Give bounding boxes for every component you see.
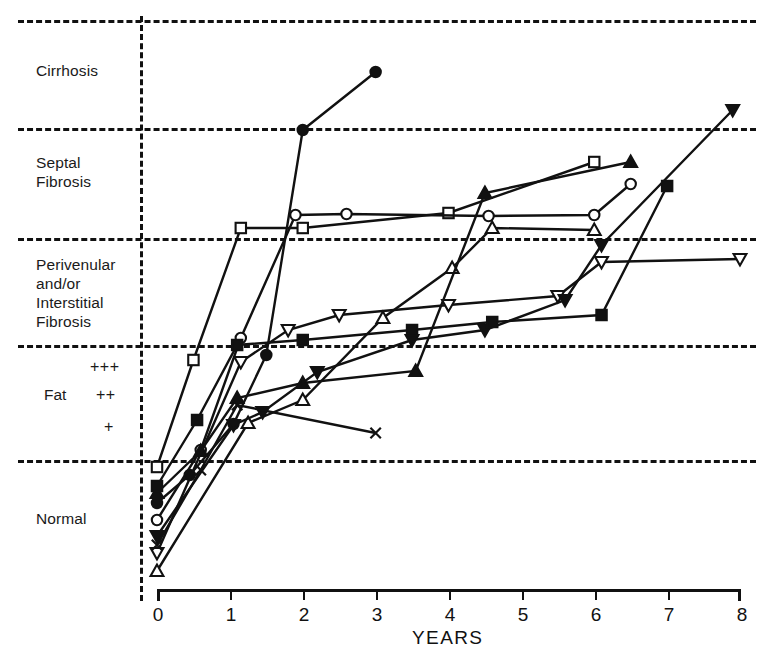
marker-square-filled: [662, 181, 672, 191]
chart-plot-area: [0, 0, 765, 662]
marker-circle-filled: [152, 498, 162, 508]
marker-square-filled: [152, 481, 162, 491]
marker-square-open: [589, 157, 599, 167]
marker-circle-open: [290, 210, 300, 220]
marker-square-filled: [407, 325, 417, 335]
marker-square-open: [298, 223, 308, 233]
marker-square-filled: [232, 340, 242, 350]
marker-square-filled: [596, 310, 606, 320]
marker-circle-filled: [261, 350, 271, 360]
marker-square-filled: [192, 415, 202, 425]
series-filled-down-triangle: [151, 105, 740, 542]
marker-circle-open: [341, 209, 351, 219]
marker-triangle-up-open: [151, 565, 164, 576]
series-line-filled-down-triangle: [157, 110, 733, 536]
marker-triangle-up-filled: [624, 156, 637, 167]
series-line-filled-up-triangle: [157, 162, 631, 493]
series-line-open-circle: [157, 184, 631, 520]
series-open-circle: [152, 179, 636, 525]
marker-triangle-down-open: [234, 357, 247, 368]
marker-square-filled: [298, 335, 308, 345]
marker-triangle-down-open: [282, 325, 295, 336]
marker-square-open: [236, 223, 246, 233]
figure-container: Cirrhosis Septal Fibrosis Perivenular an…: [0, 0, 765, 662]
marker-circle-open: [589, 210, 599, 220]
marker-circle-filled: [298, 125, 308, 135]
series-filled-circle: [152, 67, 381, 508]
marker-circle-filled: [370, 67, 380, 77]
marker-square-filled: [487, 317, 497, 327]
marker-circle-open: [152, 515, 162, 525]
marker-circle-open: [625, 179, 635, 189]
marker-square-open: [152, 462, 162, 472]
series-line-filled-circle: [157, 72, 376, 503]
marker-square-open: [188, 355, 198, 365]
series-filled-up-triangle: [151, 156, 637, 498]
